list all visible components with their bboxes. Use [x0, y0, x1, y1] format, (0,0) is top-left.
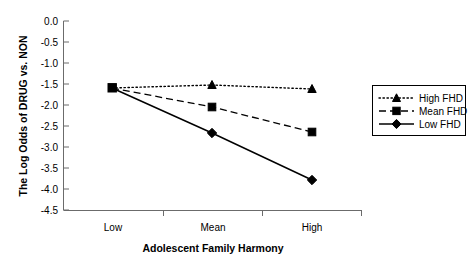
series-mean-fhd-marker-mean — [208, 103, 216, 111]
y-tick-label-2: -1.0 — [41, 58, 59, 69]
series-mean-fhd-marker-high — [308, 128, 316, 136]
x-category-label-high: High — [302, 222, 323, 233]
y-axis-title: The Log Odds of DRUG vs. NON — [17, 35, 29, 196]
series-low-fhd-marker-mean — [207, 128, 216, 137]
legend-label-high-fhd: High FHD — [419, 93, 463, 104]
y-tick-label-4: -2.0 — [41, 100, 59, 111]
series-high-fhd — [112, 81, 316, 93]
series-low-fhd-marker-high — [307, 175, 316, 184]
y-tick-label-3: -1.5 — [41, 79, 59, 90]
chart-legend: High FHD Mean FHD Low FHD — [373, 86, 468, 136]
y-tick-label-0: 0.0 — [44, 16, 58, 27]
x-category-label-low: Low — [104, 222, 123, 233]
y-tick-label-5: -2.5 — [41, 121, 59, 132]
x-tick-marks — [164, 211, 362, 217]
series-origin-marker — [108, 84, 116, 92]
x-axis-title: Adolescent Family Harmony — [142, 242, 283, 254]
chart-figure: The Log Odds of DRUG vs. NON 0.0 -0.5 -1… — [0, 0, 476, 267]
y-tick-label-7: -3.5 — [41, 163, 59, 174]
x-category-label-mean: Mean — [200, 222, 225, 233]
y-tick-label-8: -4.0 — [41, 184, 59, 195]
y-tick-label-9: -4.5 — [41, 205, 59, 216]
series-low-fhd — [112, 88, 317, 185]
y-tick-marks — [64, 21, 70, 210]
legend-label-low-fhd: Low FHD — [419, 119, 461, 130]
y-tick-label-1: -0.5 — [41, 37, 59, 48]
y-tick-label-6: -3.0 — [41, 142, 59, 153]
legend-label-mean-fhd: Mean FHD — [419, 106, 467, 117]
log-odds-line-chart: The Log Odds of DRUG vs. NON 0.0 -0.5 -1… — [0, 0, 476, 267]
series-mean-fhd — [112, 88, 316, 136]
legend-swatch-mean-fhd-marker — [393, 107, 400, 114]
